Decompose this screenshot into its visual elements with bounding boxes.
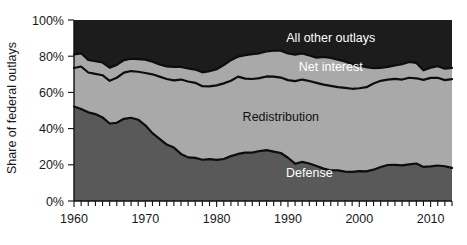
series-label-defense: Defense [286,166,333,180]
series-label-net-interest: Net interest [299,60,363,74]
x-tick-label: 1970 [131,212,159,226]
series-label-all-other-outlays: All other outlays [286,31,375,45]
x-tick-label: 1980 [203,212,231,226]
y-tick-label: 100% [32,14,64,28]
y-tick-label: 60% [39,86,64,100]
stacked-area-chart: 0%20%40%60%80%100% 196019701980199020002… [0,0,467,245]
chart-canvas: 0%20%40%60%80%100% 196019701980199020002… [0,0,467,245]
y-tick-label: 20% [39,158,64,172]
x-tick-label: 1960 [60,212,88,226]
x-tick-label: 1990 [274,212,302,226]
x-tick-label: 2000 [345,212,373,226]
y-tick-label: 0% [46,195,64,209]
y-tick-label: 40% [39,122,64,136]
y-tick-label: 80% [39,50,64,64]
y-axis-title: Share of federal outlays [5,42,19,174]
series-label-redistribution: Redistribution [243,110,319,124]
x-tick-label: 2010 [417,212,445,226]
